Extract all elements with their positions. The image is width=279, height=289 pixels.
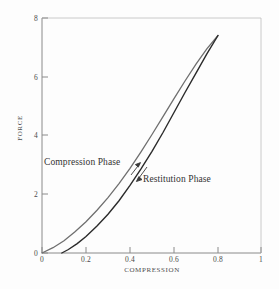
y-tick-label-0: 0 — [24, 249, 38, 258]
restitution-phase-label: Restitution Phase — [143, 174, 211, 184]
x-tick-label-0-6: 0.6 — [169, 255, 179, 264]
y-tick-label-8: 8 — [24, 14, 38, 23]
x-tick-marks — [42, 247, 261, 253]
plot-canvas — [0, 0, 279, 289]
x-tick-label-0-4: 0.4 — [125, 255, 135, 264]
x-tick-label-0-8: 0.8 — [213, 255, 223, 264]
x-tick-label-0-2: 0.2 — [81, 255, 91, 264]
y-tick-label-4: 4 — [24, 131, 38, 140]
restitution-phase-curve — [62, 36, 218, 254]
compression-phase-label: Compression Phase — [44, 157, 120, 167]
y-tick-marks — [42, 18, 48, 253]
chart-figure: 0 0.2 0.4 0.6 0.8 1 0 2 4 6 8 COMPRESSIO… — [0, 0, 279, 289]
y-tick-label-6: 6 — [24, 73, 38, 82]
y-axis-title: FORCE — [16, 115, 24, 141]
x-axis-title: COMPRESSION — [124, 266, 180, 274]
x-tick-label-0: 0 — [40, 255, 44, 264]
y-tick-label-2: 2 — [24, 190, 38, 199]
compression-phase-curve — [42, 36, 218, 254]
x-tick-label-1: 1 — [259, 255, 263, 264]
